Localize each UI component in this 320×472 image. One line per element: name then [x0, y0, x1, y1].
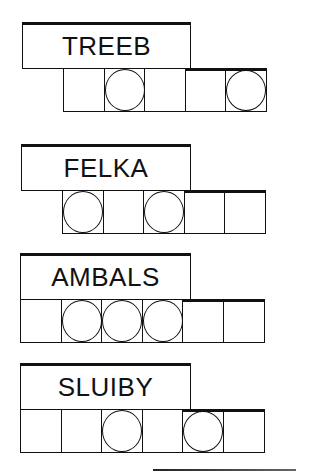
answer-cell-6[interactable]	[223, 299, 265, 343]
answer-cell-3-circled[interactable]	[101, 409, 143, 453]
answer-cell-4[interactable]	[185, 68, 227, 112]
answer-cell-2[interactable]	[103, 190, 145, 234]
answer-cell-3-circled[interactable]	[143, 190, 185, 234]
scrambled-word-label: FELKA	[21, 144, 191, 191]
answer-cell-3-circled[interactable]	[101, 299, 143, 343]
answer-cell-6[interactable]	[223, 409, 265, 453]
circle-marker-icon	[102, 300, 142, 342]
divider-line	[153, 469, 296, 471]
answer-cell-1[interactable]	[20, 409, 62, 453]
scrambled-word-label: TREEB	[22, 22, 191, 69]
answer-cell-3[interactable]	[144, 68, 186, 112]
answer-cell-1-circled[interactable]	[62, 190, 104, 234]
circle-marker-icon	[63, 191, 103, 233]
circle-marker-icon	[105, 69, 145, 111]
answer-cell-1[interactable]	[63, 68, 105, 112]
answer-cell-4-circled[interactable]	[142, 299, 184, 343]
answer-cells	[20, 409, 265, 453]
circle-marker-icon	[183, 411, 223, 452]
answer-cell-5[interactable]	[182, 299, 224, 343]
answer-cells	[62, 190, 266, 234]
scrambled-word-label: SLUIBY	[20, 363, 191, 410]
answer-cell-4[interactable]	[142, 409, 184, 453]
answer-cell-2-circled[interactable]	[61, 299, 103, 343]
answer-cell-5-circled[interactable]	[182, 409, 224, 453]
answer-cell-1[interactable]	[20, 299, 62, 343]
answer-cell-2[interactable]	[61, 409, 103, 453]
circle-marker-icon	[226, 70, 266, 111]
circle-marker-icon	[62, 300, 102, 342]
answer-cells	[63, 68, 267, 112]
answer-cell-5-circled[interactable]	[225, 68, 267, 112]
answer-cell-4[interactable]	[184, 190, 226, 234]
circle-marker-icon	[102, 410, 142, 452]
scrambled-word-label: AMBALS	[20, 253, 191, 300]
answer-cells	[20, 299, 265, 343]
circle-marker-icon	[143, 300, 183, 342]
circle-marker-icon	[144, 191, 184, 233]
answer-cell-5[interactable]	[224, 190, 266, 234]
answer-cell-2-circled[interactable]	[104, 68, 146, 112]
